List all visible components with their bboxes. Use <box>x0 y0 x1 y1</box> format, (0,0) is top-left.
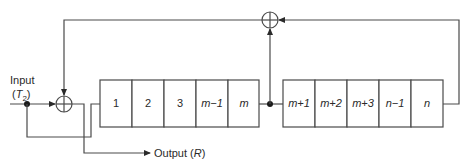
cell-label: 2 <box>145 97 151 109</box>
xor-gate-feedback <box>262 12 278 28</box>
input-sublabel: (T2) <box>12 88 31 103</box>
cell-label: n−1 <box>386 97 405 109</box>
shift-register-diagram: Input (T2) Output (R) 1 2 3 m−1 m m+1 m <box>0 0 471 166</box>
cell-label: m+2 <box>320 97 342 109</box>
cell-label: m+3 <box>352 97 375 109</box>
cell-label: 1 <box>113 97 119 109</box>
output-label: Output (R) <box>154 147 205 159</box>
cell-label: n <box>424 97 430 109</box>
cell-label: 3 <box>177 97 183 109</box>
cell-label: m+1 <box>288 97 310 109</box>
input-label: Input <box>10 74 34 86</box>
register-b: m+1 m+2 m+3 n−1 n <box>283 80 443 127</box>
register-a: 1 2 3 m−1 m <box>100 80 259 127</box>
cell-label: m <box>239 97 248 109</box>
cell-label: m−1 <box>201 97 223 109</box>
xor-gate-input <box>56 96 72 112</box>
